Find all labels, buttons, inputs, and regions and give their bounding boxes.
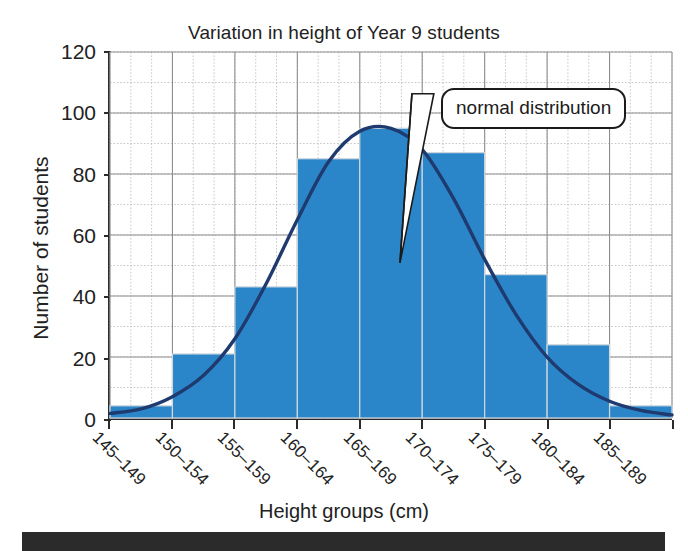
bar xyxy=(172,354,234,418)
y-tick-label: 60 xyxy=(73,224,96,248)
x-tick-label: 155–159 xyxy=(213,428,275,490)
x-tick-label: 165–169 xyxy=(339,428,401,490)
x-tick-label: 180–184 xyxy=(527,428,589,490)
bar xyxy=(422,153,484,418)
y-axis-title: Number of students xyxy=(29,83,53,413)
x-tick-label: 150–154 xyxy=(151,428,213,490)
x-tick-label: 145–149 xyxy=(88,428,150,490)
bar-series xyxy=(110,128,672,418)
bar xyxy=(235,287,297,418)
normal-distribution-callout: normal distribution xyxy=(441,88,626,129)
bar xyxy=(547,345,609,418)
x-tick-label: 170–174 xyxy=(401,428,463,490)
y-tick-label: 20 xyxy=(73,347,96,371)
y-tick-label: 80 xyxy=(73,163,96,187)
x-tick-mark xyxy=(672,420,674,429)
chart-figure: Variation in height of Year 9 students 0… xyxy=(0,0,688,551)
x-tick-label: 175–179 xyxy=(464,428,526,490)
x-tick-label: 185–189 xyxy=(589,428,651,490)
x-tick-label: 160–164 xyxy=(276,428,338,490)
x-axis-title: Height groups (cm) xyxy=(0,500,688,523)
y-tick-label: 100 xyxy=(61,101,96,125)
page-edge-band xyxy=(22,532,665,551)
top-clipped-text xyxy=(0,0,688,9)
y-tick-label: 0 xyxy=(84,408,96,432)
chart-title: Variation in height of Year 9 students xyxy=(0,22,688,44)
y-tick-label: 120 xyxy=(61,40,96,64)
y-tick-label: 40 xyxy=(73,285,96,309)
